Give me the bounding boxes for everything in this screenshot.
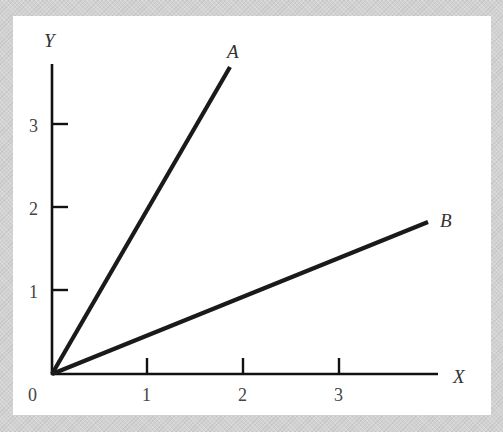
axes	[51, 64, 438, 375]
series	[52, 67, 428, 374]
series-b-label: B	[440, 210, 452, 231]
x-axis-label: X	[452, 366, 466, 387]
origin-label: 0	[28, 385, 37, 405]
y-tick-label-2: 2	[29, 199, 38, 219]
y-tick-label-3: 3	[29, 116, 38, 136]
x-ticks	[147, 358, 339, 374]
line-a	[52, 67, 230, 374]
y-tick-label-1: 1	[29, 282, 38, 302]
y-ticks	[52, 124, 68, 290]
x-tick-label-3: 3	[334, 385, 343, 405]
series-a-label: A	[225, 41, 239, 62]
line-chart: Y X A B 3 2 1 0 1 2 3	[0, 0, 503, 432]
x-tick-label-2: 2	[238, 385, 247, 405]
y-axis-label: Y	[44, 30, 57, 51]
x-tick-label-1: 1	[142, 385, 151, 405]
line-b	[52, 222, 428, 374]
